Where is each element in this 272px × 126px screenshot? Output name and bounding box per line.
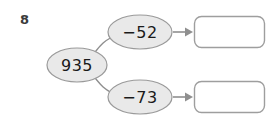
answer-box-top[interactable]: [195, 17, 265, 48]
subtract-73-label: −73: [122, 88, 157, 107]
arrow-head-bottom-icon: [185, 93, 193, 102]
start-value-label: 935: [61, 56, 93, 75]
subtract-52-label: −52: [122, 23, 157, 42]
function-machine-diagram: 935 −52 −73: [0, 0, 272, 126]
arrow-head-top-icon: [185, 28, 193, 37]
connector-start-to-subtract-52: [95, 37, 112, 52]
answer-box-bottom[interactable]: [195, 82, 265, 113]
worksheet-problem-canvas: 8 935 −52 −73: [0, 0, 272, 126]
